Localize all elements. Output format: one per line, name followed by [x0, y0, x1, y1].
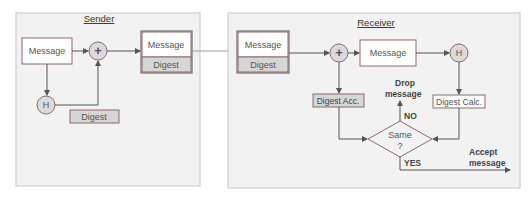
digest-acc-label: Digest Acc. — [317, 96, 360, 106]
no-label: NO — [404, 111, 417, 121]
receiver-plus-operator: + — [330, 44, 348, 62]
sender-message-box: Message — [22, 38, 72, 64]
hash-icon: H — [456, 48, 463, 58]
decision-line1: Same — [388, 130, 412, 140]
diagram-canvas: Sender Message + H Digest Message Digest — [0, 0, 532, 198]
accept-line2: message — [469, 158, 506, 168]
sender-message-label: Message — [29, 46, 66, 56]
receiver-message-label: Message — [370, 48, 407, 58]
drop-line1: Drop — [395, 78, 415, 88]
sender-digest-label: Digest — [81, 112, 107, 122]
sender-panel: Sender Message + H Digest Message Digest — [16, 13, 200, 186]
sender-hash-function: H — [37, 96, 55, 114]
plus-icon: + — [94, 43, 102, 58]
accept-line1: Accept — [469, 147, 498, 157]
drop-line2: message — [385, 89, 422, 99]
sender-title: Sender — [84, 13, 115, 24]
digest-calc-box: Digest Calc. — [433, 95, 485, 108]
decision-line2: ? — [397, 141, 402, 151]
sender-plus-operator: + — [89, 42, 107, 60]
digest-acc-box: Digest Acc. — [313, 94, 364, 107]
sender-packet-message: Message — [148, 40, 185, 50]
digest-calc-label: Digest Calc. — [436, 97, 482, 107]
receiver-packet-digest: Digest — [250, 60, 276, 70]
receiver-packet-message: Message — [245, 40, 282, 50]
receiver-panel: Receiver Message Digest + Message H Dige… — [228, 13, 520, 188]
sender-packet-digest: Digest — [153, 60, 179, 70]
receiver-message-box: Message — [360, 40, 416, 66]
receiver-title: Receiver — [357, 17, 395, 28]
hash-icon: H — [43, 100, 50, 110]
yes-label: YES — [404, 158, 421, 168]
receiver-packet: Message Digest — [237, 31, 289, 73]
plus-icon: + — [335, 45, 343, 60]
receiver-hash-function: H — [450, 44, 468, 62]
sender-digest-box: Digest — [70, 110, 119, 123]
sender-packet: Message Digest — [141, 31, 192, 73]
